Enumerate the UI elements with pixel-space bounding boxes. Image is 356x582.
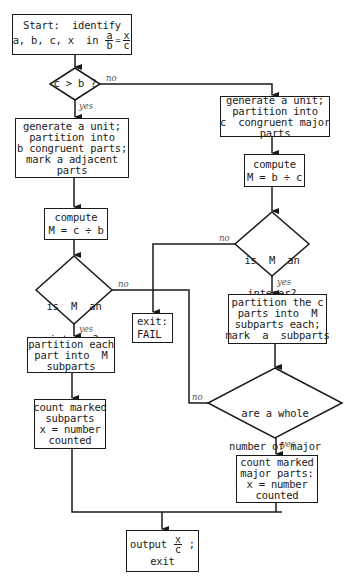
yes-label-c-gt-b: yes bbox=[79, 101, 93, 111]
no-label-right-integer: no bbox=[219, 233, 230, 243]
left-compute-box: compute M = c ÷ b bbox=[44, 208, 108, 240]
left-generate-box: generate a unit; partition into b congru… bbox=[15, 118, 129, 178]
no-label-c-gt-b: no bbox=[106, 73, 117, 83]
fraction-x-over-c-output: x c bbox=[174, 535, 182, 554]
right-count-box: count marked major parts: x = number cou… bbox=[236, 455, 318, 503]
start-vars: a, b, c, x in bbox=[13, 35, 105, 46]
start-box: Start: identify a, b, c, x in a b = x c bbox=[12, 14, 132, 55]
right-generate-box: generate a unit; partition into c congru… bbox=[220, 96, 330, 137]
no-label-left-integer: no bbox=[118, 279, 129, 289]
output-exit-box: output x c ; exit bbox=[126, 530, 199, 572]
right-partition-box: partition the c parts into M subparts ea… bbox=[228, 294, 327, 344]
start-line1: Start: identify bbox=[23, 20, 121, 31]
right-compute-box: compute M = b ÷ c bbox=[244, 154, 305, 187]
left-partition-box: partition each part into M subparts bbox=[27, 337, 115, 373]
fraction-x-over-c: x c bbox=[123, 31, 131, 50]
no-label-whole: no bbox=[192, 392, 203, 402]
decision-c-gt-b-text: c > b ? bbox=[50, 78, 100, 89]
fraction-a-over-b: a b bbox=[105, 31, 113, 50]
left-count-box: count marked subparts x = number counted bbox=[34, 399, 106, 449]
exit-fail-box: exit: FAIL bbox=[132, 313, 173, 343]
output-line1: output x c ; bbox=[130, 535, 195, 554]
start-line2: a, b, c, x in a b = x c bbox=[13, 31, 132, 50]
